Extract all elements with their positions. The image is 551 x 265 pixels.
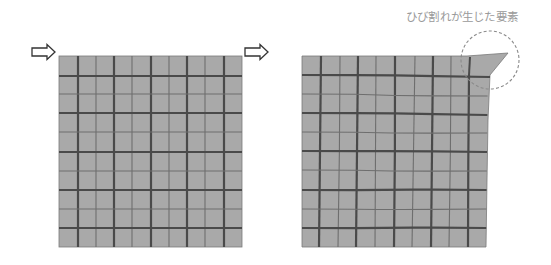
original-grid bbox=[59, 56, 242, 247]
cracked-element-line bbox=[469, 57, 470, 75]
grid-line-horizontal bbox=[302, 151, 487, 152]
arrow-right-icon bbox=[245, 45, 268, 60]
grid-line-horizontal bbox=[302, 228, 486, 229]
grid-line-horizontal bbox=[302, 190, 487, 191]
diagram-stage: ひび割れが生じた要素 bbox=[0, 0, 551, 265]
grid-deformation-diagram bbox=[0, 0, 551, 265]
deformed-grid-body bbox=[302, 53, 508, 247]
cracked-element-label: ひび割れが生じた要素 bbox=[406, 8, 518, 24]
arrow-right-icon bbox=[32, 45, 55, 60]
grid-line-vertical bbox=[468, 75, 469, 247]
deformed-grid bbox=[302, 53, 508, 247]
